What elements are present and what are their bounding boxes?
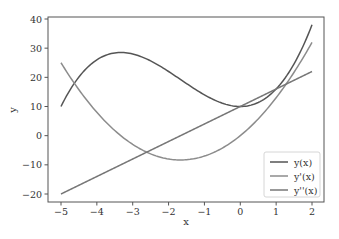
x-tick-label: 1 (273, 206, 279, 217)
series-line-1 (61, 42, 312, 160)
y-tick-label: 0 (36, 130, 42, 141)
x-tick-label: 0 (237, 206, 243, 217)
y-axis-ticks: −20−10010203040 (22, 14, 48, 200)
y-tick-label: 10 (30, 101, 42, 112)
x-tick-label: 2 (309, 206, 315, 217)
legend-label-y: y(x) (293, 157, 312, 168)
y-tick-label: 20 (30, 72, 42, 83)
x-tick-label: −4 (90, 206, 104, 217)
y-tick-label: 40 (30, 14, 42, 25)
chart-canvas: −5−4−3−2−1012 −20−10010203040 x y y(x) y… (0, 0, 339, 239)
x-axis-label: x (183, 216, 189, 227)
y-axis-label: y (7, 107, 18, 114)
legend-label-y-prime: y'(x) (293, 171, 315, 182)
y-tick-label: −10 (22, 159, 42, 170)
series-line-0 (61, 25, 312, 107)
legend-label-y-double-prime: y''(x) (293, 185, 317, 196)
y-tick-label: 30 (30, 43, 42, 54)
y-tick-label: −20 (22, 189, 42, 200)
legend: y(x) y'(x) y''(x) (264, 152, 320, 197)
x-tick-label: −2 (162, 206, 176, 217)
x-tick-label: −5 (54, 206, 68, 217)
x-tick-label: −3 (126, 206, 140, 217)
x-axis-ticks: −5−4−3−2−1012 (54, 202, 315, 217)
x-tick-label: −1 (197, 206, 211, 217)
